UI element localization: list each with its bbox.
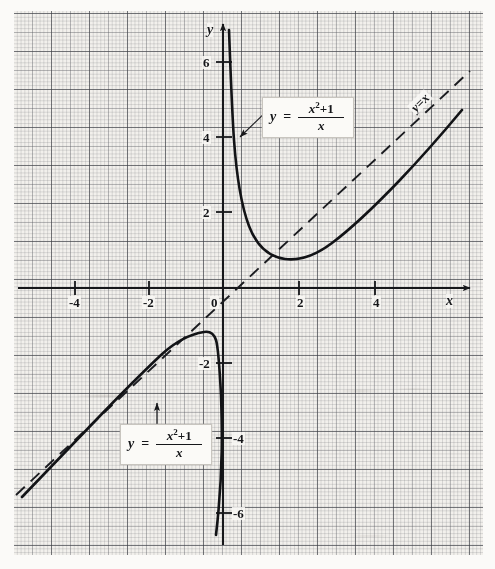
x-tick-label-neg2: -2 <box>142 296 155 309</box>
callout-upper-lhs: y <box>270 109 276 125</box>
callout-lower-equals: = <box>141 436 149 452</box>
x-tick-label-neg4: -4 <box>68 296 81 309</box>
callout-lower-numerator: x2+1 <box>163 429 196 444</box>
y-tick-label-4: 4 <box>202 131 211 144</box>
callout-lower-denominator: x <box>172 445 187 460</box>
y-axis-name-label: y <box>207 23 213 37</box>
y-tick-label-2: 2 <box>202 206 211 219</box>
callout-lower-num-tail: +1 <box>178 428 192 443</box>
x-tick-label-zero: 0 <box>210 296 219 309</box>
callout-lower-fraction: x2+1 x <box>156 429 202 460</box>
plot-layer <box>0 0 495 569</box>
callout-upper-num-tail: +1 <box>320 101 334 116</box>
callout-lower-lhs: y <box>128 436 134 452</box>
callout-upper-numerator: x2+1 <box>305 102 338 117</box>
y-tick-label-6: 6 <box>202 56 211 69</box>
y-tick-label-neg4: -4 <box>232 432 245 445</box>
y-tick-label-neg2: -2 <box>198 357 211 370</box>
callout-upper-equals: = <box>283 109 291 125</box>
callout-box-upper: y = x2+1 x <box>262 97 354 138</box>
y-tick-label-neg6: -6 <box>232 507 245 520</box>
x-tick-label-4: 4 <box>372 296 381 309</box>
x-tick-label-2: 2 <box>296 296 305 309</box>
figure-canvas: -4 -2 0 2 4 6 4 2 -2 -4 -6 x y y=x y = x… <box>0 0 495 569</box>
callout-box-lower: y = x2+1 x <box>120 424 212 465</box>
callout-upper-fraction: x2+1 x <box>298 102 344 133</box>
curve-right-branch <box>229 30 462 259</box>
x-axis-name-label: x <box>446 294 453 308</box>
callout-upper-denominator: x <box>314 118 329 133</box>
